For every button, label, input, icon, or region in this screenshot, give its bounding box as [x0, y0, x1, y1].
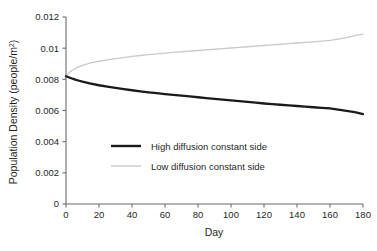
y-tick-label: 0.008: [35, 74, 59, 85]
x-tick-label: 20: [94, 209, 105, 220]
y-axis-title: Population Density (people/m2): [7, 40, 19, 184]
x-tick-label: 60: [160, 209, 171, 220]
y-tick-label: 0.012: [35, 11, 59, 22]
x-tick-label: 140: [289, 209, 305, 220]
x-tick-label: 0: [63, 209, 68, 220]
y-tick-label: 0.01: [41, 43, 60, 54]
legend-label-low-diffusion: Low diffusion constant side: [151, 161, 265, 172]
x-tick-label: 160: [322, 209, 338, 220]
x-tick-label: 80: [193, 209, 204, 220]
x-tick-label: 40: [127, 209, 138, 220]
y-tick-label: 0.002: [35, 167, 59, 178]
legend-label-high-diffusion: High diffusion constant side: [151, 141, 267, 152]
y-tick-label: 0: [54, 198, 59, 209]
y-tick-label: 0.006: [35, 105, 59, 116]
x-axis-title: Day: [205, 226, 224, 238]
y-tick-label: 0.004: [35, 136, 59, 147]
x-tick-label: 180: [355, 209, 371, 220]
y-axis-title-tail: ): [7, 40, 19, 44]
y-axis-title-main: Population Density (people/m: [7, 47, 19, 184]
chart-figure: 00.0020.0040.0060.0080.010.012 020406080…: [0, 0, 377, 251]
x-tick-label: 120: [256, 209, 272, 220]
x-tick-label: 100: [223, 209, 239, 220]
line-chart: 00.0020.0040.0060.0080.010.012 020406080…: [0, 0, 377, 251]
chart-background: [0, 0, 377, 251]
